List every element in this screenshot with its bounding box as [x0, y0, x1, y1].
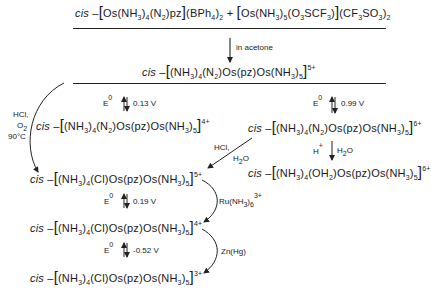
label-90c: 90°C — [8, 132, 26, 142]
reactants-rule — [73, 28, 386, 29]
product-6plus-n2: cis –[(NH3)4(N2)Os(pz)Os(NH3)5]6+ — [248, 120, 422, 135]
plus-sign: + — [227, 7, 234, 19]
charge: 3+ — [194, 270, 202, 277]
label-h2o-2: H2O — [337, 146, 353, 156]
label-in-acetone: in acetone — [236, 43, 273, 53]
cis-prefix: cis — [75, 7, 89, 19]
e0-value-019: 0.19 V — [133, 197, 156, 207]
charge: 4+ — [201, 118, 209, 125]
e0-label: E0 — [104, 245, 113, 256]
label-h2o: H2O — [233, 154, 249, 164]
label-zn-hg: Zn(Hg) — [221, 247, 246, 257]
product-5plus-cl: cis –[(NH3)4(Cl)Os(pz)Os(NH3)5]5+ — [30, 171, 202, 186]
product-4plus-n2: cis –[(NH3)4(N2)Os(pz)Os(NH3)5]4+ — [36, 118, 210, 133]
charge: 5+ — [194, 171, 202, 178]
e0-label: E0 — [104, 196, 113, 207]
product-4plus-cl: cis –[(NH3)4(Cl)Os(pz)Os(NH3)5]4+ — [30, 220, 202, 235]
product-6plus-oh2: cis –[(NH3)4(OH2)Os(pz)Os(NH3)5]6+ — [248, 165, 431, 180]
charge: 6+ — [422, 165, 430, 172]
charge: 5+ — [307, 64, 315, 71]
e0-label: E0 — [313, 98, 322, 109]
e0-value-099: 0.99 V — [341, 99, 364, 109]
reactants-equation: cis –[Os(NH3)4(N2)pz](BPh4)2 + [Os(NH3)5… — [75, 5, 391, 20]
charge: 6+ — [413, 120, 421, 127]
label-hcl-2: HCl, — [214, 143, 230, 153]
charge: 4+ — [194, 220, 202, 227]
e0-label: E0 — [103, 98, 112, 109]
e0-value-013: 0.13 V — [133, 99, 156, 109]
product-5plus-n2: cis –[(NH3)4(N2)Os(pz)Os(NH3)5]5+ — [142, 64, 316, 79]
label-ru-nh3-6: Ru(NH3)63+ — [219, 196, 262, 207]
label-o2: O2 — [17, 121, 27, 131]
label-hcl: HCl, — [13, 110, 29, 120]
label-h-plus: H+ — [313, 146, 323, 157]
product-rule — [73, 83, 386, 84]
e0-value-052: -0.52 V — [133, 246, 159, 256]
product-3plus-cl: cis –[(NH3)4(Cl)Os(pz)Os(NH3)5]3+ — [30, 270, 202, 285]
